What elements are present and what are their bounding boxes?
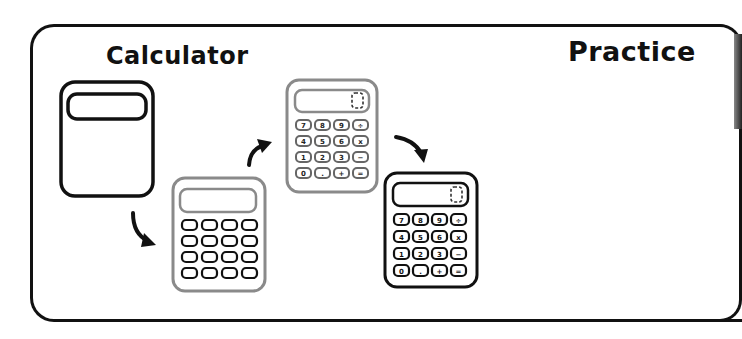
calculator-blank: [61, 82, 153, 196]
key-label: x: [358, 138, 363, 146]
key-label: 1: [399, 251, 404, 259]
calculator-labeled-dark: 7 8 9 ÷ 4 5 6 x 1 2 3 − 0 . + =: [385, 173, 477, 287]
key-label: 9: [437, 217, 442, 225]
curved-arrow-down-right-icon: [133, 213, 156, 247]
key-label: ÷: [456, 217, 462, 225]
key-label: 5: [320, 138, 325, 146]
key-label: 8: [418, 217, 423, 225]
key-label: 7: [399, 217, 404, 225]
key-label: 3: [437, 251, 442, 259]
curved-arrow-up-right-icon: [249, 139, 272, 165]
key-label: .: [321, 170, 324, 178]
key-label: 7: [301, 122, 306, 130]
key-label: −: [358, 154, 364, 162]
key-label: 8: [320, 122, 325, 130]
key-label: 2: [320, 154, 325, 162]
key-label: +: [437, 268, 443, 276]
key-label: 2: [418, 251, 423, 259]
key-label: x: [456, 234, 461, 242]
curved-arrow-down-right-icon: [396, 137, 428, 163]
key-label: +: [339, 170, 345, 178]
key-label: 1: [301, 154, 306, 162]
key-label: 5: [418, 234, 423, 242]
calculator-blank-keys: [173, 178, 265, 291]
key-label: .: [419, 268, 422, 276]
key-label: 3: [339, 154, 344, 162]
calculator-labeled-gray: 7 8 9 ÷ 4 5 6 x 1 2 3 − 0 . + =: [287, 80, 377, 192]
diagram-canvas: 7 8 9 ÷ 4 5 6 x 1 2 3 − 0 . + =: [0, 0, 742, 339]
key-label: 4: [301, 138, 306, 146]
key-label: 6: [437, 234, 442, 242]
key-label: 0: [301, 170, 306, 178]
key-label: −: [456, 251, 462, 259]
key-label: 6: [339, 138, 344, 146]
key-label: ÷: [358, 122, 364, 130]
key-label: =: [358, 170, 364, 178]
key-label: =: [456, 268, 462, 276]
key-label: 4: [399, 234, 404, 242]
key-label: 0: [399, 268, 404, 276]
key-label: 9: [339, 122, 344, 130]
